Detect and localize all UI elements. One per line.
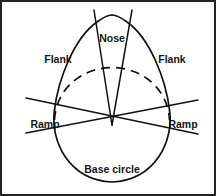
cam-profile-diagram: Nose Flank Flank Ramp Ramp Base circle: [2, 2, 216, 196]
cam-diagram-frame: Nose Flank Flank Ramp Ramp Base circle: [0, 0, 216, 196]
radial-line-right: [112, 10, 132, 125]
label-base-circle: Base circle: [84, 163, 140, 175]
label-flank-right: Flank: [158, 53, 186, 65]
label-ramp-right: Ramp: [168, 118, 197, 130]
base-circle-dashed-arc: [55, 68, 170, 121]
label-ramp-left: Ramp: [30, 118, 59, 130]
label-nose: Nose: [99, 32, 125, 44]
label-flank-left: Flank: [44, 53, 72, 65]
